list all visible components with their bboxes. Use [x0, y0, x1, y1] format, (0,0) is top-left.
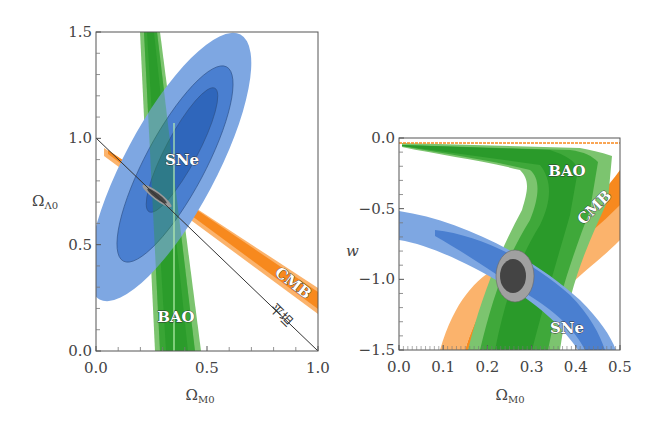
right-x-axis-label-sub: M0: [508, 394, 525, 405]
left-x-axis-label-main: Ω: [185, 386, 197, 404]
annotation-bao-right: BAO: [548, 162, 585, 180]
left-y-axis-label: ΩΛ0: [32, 192, 58, 211]
right-x-axis-label-main: Ω: [495, 386, 507, 404]
right-x-tick-label: 0.1: [431, 358, 455, 376]
right-y-tick-label: −0.5: [359, 200, 395, 218]
right-plot-area: [399, 143, 620, 350]
right-y-tick-label: 0.0: [371, 129, 395, 147]
right-x-tick-label: 0.4: [564, 358, 588, 376]
left-x-axis-label: ΩM0: [185, 386, 214, 405]
left-y-tick-label: 0.5: [68, 236, 92, 254]
left-panel: 0.00.51.00.00.51.01.5 SNe BAO CMB 平坦 ΩM0…: [32, 13, 330, 405]
figure: 0.00.51.00.00.51.01.5 SNe BAO CMB 平坦 ΩM0…: [0, 0, 657, 430]
annotation-sne-left: SNe: [165, 151, 199, 169]
annotation-sne-right: SNe: [550, 319, 584, 337]
left-x-tick-label: 0.5: [195, 359, 219, 377]
right-y-tick-label: −1.0: [359, 270, 395, 288]
right-x-axis-label: ΩM0: [495, 386, 524, 405]
right-y-tick-label: −1.5: [359, 341, 395, 359]
right-x-tick-label: 0.3: [520, 358, 544, 376]
right-panel: 0.00.10.20.30.40.50.0−0.5−1.0−1.5 BAO CM…: [346, 129, 632, 405]
left-y-tick-label: 1.5: [68, 23, 92, 41]
annotation-bao-left: BAO: [157, 308, 194, 326]
left-y-axis-label-sub: Λ0: [43, 200, 58, 211]
right-y-axis-label: w: [346, 242, 359, 260]
right-x-tick-label: 0.0: [387, 358, 411, 376]
left-y-axis-label-main: Ω: [32, 192, 44, 210]
left-y-tick-label: 0.0: [68, 342, 92, 360]
left-y-tick-label: 1.0: [68, 129, 92, 147]
left-x-axis-label-sub: M0: [198, 394, 215, 405]
combined-contour-inner-right: [500, 259, 526, 293]
left-plot-area: [59, 13, 318, 351]
left-x-tick-label: 0.0: [84, 359, 108, 377]
right-x-tick-label: 0.5: [608, 358, 632, 376]
left-x-tick-label: 1.0: [306, 359, 330, 377]
right-x-tick-label: 0.2: [475, 358, 499, 376]
